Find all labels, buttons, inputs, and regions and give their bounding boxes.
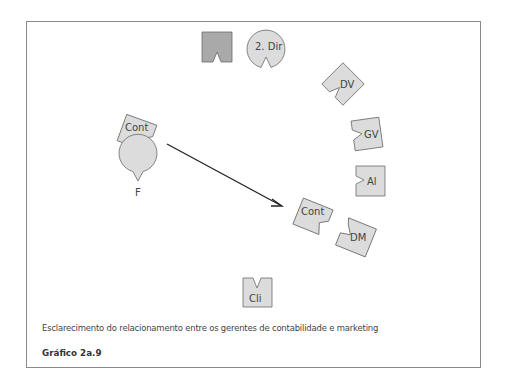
node-cont-right: Cont — [293, 198, 333, 236]
node-label: GV — [364, 129, 379, 140]
node-label: DV — [340, 79, 355, 90]
node-label: Al — [367, 176, 377, 187]
node-label: 2. Dir — [255, 41, 283, 52]
figure-number: Gráfico 2a.9 — [42, 347, 101, 358]
node-unlabeled-square — [202, 32, 232, 62]
node-gv: GV — [351, 117, 383, 151]
node-al: Al — [356, 166, 385, 196]
node-2-dir: 2. Dir — [247, 30, 285, 67]
node-label: Cont — [125, 122, 148, 133]
node-label: Cli — [249, 293, 262, 304]
figure-caption: Esclarecimento do relacionamento entre o… — [42, 322, 378, 333]
node-dm: DM — [336, 217, 377, 257]
node-f: F — [119, 134, 157, 198]
node-label: DM — [350, 232, 366, 243]
node-label: F — [135, 187, 141, 198]
node-dv: DV — [322, 63, 364, 105]
relationship-arrow — [167, 144, 282, 206]
node-cli: Cli — [243, 278, 272, 307]
node-label: Cont — [301, 206, 324, 217]
